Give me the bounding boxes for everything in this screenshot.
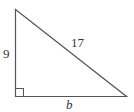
hypotenuse-label: 17 xyxy=(71,35,85,50)
right-triangle-diagram: 9 17 b xyxy=(0,0,134,112)
horizontal-leg-label: b xyxy=(66,97,73,112)
triangle-outline xyxy=(16,10,127,97)
right-angle-marker xyxy=(16,89,24,97)
vertical-leg-label: 9 xyxy=(3,46,10,61)
